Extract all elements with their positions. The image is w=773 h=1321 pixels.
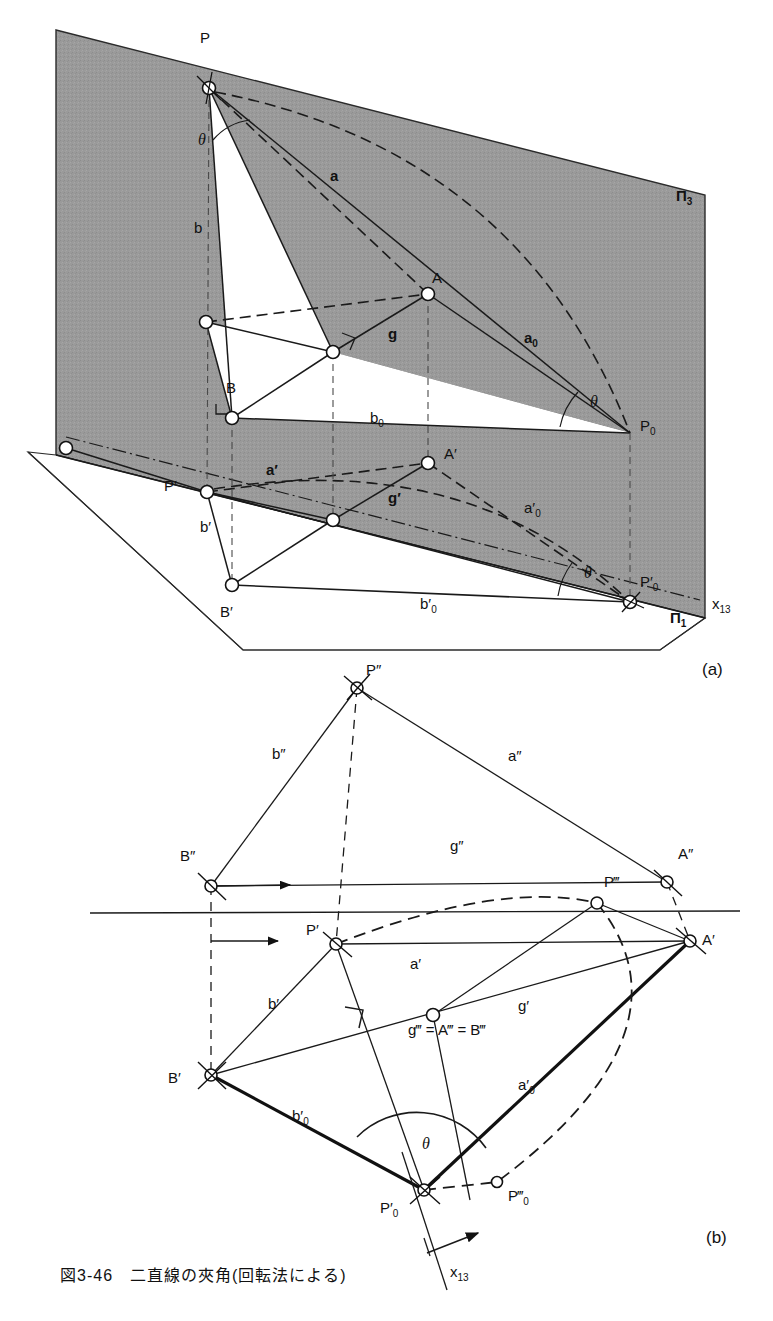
label-a-pi1: Π1	[670, 610, 686, 629]
label-a-Bq: B′	[220, 604, 233, 619]
node-gddd	[427, 1009, 440, 1022]
label-a-x13: x13	[712, 596, 731, 615]
axis-x13-tick	[424, 1238, 430, 1256]
node-Pq	[201, 486, 214, 499]
node-left-aux	[200, 316, 213, 329]
node-pi1-corner	[60, 442, 73, 455]
label-a-P0: P0	[640, 418, 656, 437]
arc-rotation-big	[497, 903, 632, 1182]
label-b-P0ddd: P‴0	[508, 1188, 529, 1207]
label-a-bq: b′	[200, 519, 211, 534]
panel-b-bold-lines	[211, 941, 690, 1190]
label-b-bdd: b″	[272, 746, 286, 761]
node-g	[327, 346, 340, 359]
node-A	[422, 288, 435, 301]
seg-aq	[336, 941, 690, 944]
label-a-theta-top: θ	[198, 132, 206, 148]
seg-Pq-P0q	[336, 944, 424, 1190]
seg-gddd-node	[433, 1015, 470, 1200]
figure-caption: 図3-46 二直線の夾角(回転法による)	[60, 1262, 347, 1286]
label-a-a0q: a′0	[524, 500, 541, 519]
label-a-A: A	[432, 270, 442, 285]
label-b-P0q: P′0	[380, 1200, 398, 1219]
projector-Pdd-Pq	[336, 688, 357, 944]
node-B	[226, 412, 239, 425]
axis-x13-arrow	[427, 1233, 478, 1253]
label-a-gq: g′	[388, 490, 401, 505]
seg-b0q-bold	[211, 1075, 424, 1190]
label-b-Pq: P′	[306, 922, 319, 937]
label-a-Aq: A′	[444, 446, 457, 461]
label-b-gdd: g″	[450, 838, 464, 853]
label-a-a: a	[330, 168, 338, 183]
label-a-aq: a′	[266, 462, 278, 477]
label-b-add: a″	[508, 748, 522, 763]
label-a-b0q: b′0	[420, 596, 437, 615]
label-a-theta-P0: θ	[590, 394, 598, 410]
right-angle-tick-gq-b	[345, 1007, 363, 1028]
label-a-pi3: Π3	[676, 188, 692, 207]
panel-b-group	[90, 674, 740, 1290]
label-a-g: g	[388, 326, 397, 341]
node-Bq	[226, 579, 239, 592]
label-a-b0: b0	[370, 410, 384, 429]
label-a-P0q: P′0	[640, 574, 658, 593]
label-b-aq: a′	[410, 956, 421, 971]
panel-a-group	[28, 30, 705, 650]
panel-b-id: (b)	[706, 1228, 727, 1248]
label-a-theta-P0q: θ	[584, 565, 592, 581]
label-a-Pq: P′	[164, 478, 177, 493]
arc-rotation-Pddd	[336, 897, 597, 944]
label-b-Bdd: B″	[180, 848, 195, 863]
label-a-B: B	[226, 380, 236, 395]
node-Pddd	[591, 897, 603, 909]
label-a-P: P	[200, 30, 210, 45]
label-b-gddd: g‴ = A‴ = B‴	[408, 1022, 486, 1037]
node-Aq	[422, 457, 435, 470]
label-b-a0q: a′0	[518, 1077, 535, 1096]
label-b-Add: A″	[678, 846, 693, 861]
label-b-b0q: b′0	[292, 1108, 309, 1127]
panel-b-upper-triangle	[211, 688, 667, 886]
figure-canvas	[0, 0, 773, 1321]
node-P0ddd	[492, 1177, 503, 1188]
seg-Pdd-Add	[357, 688, 667, 882]
node-gq	[327, 514, 340, 527]
label-b-bq: b′	[268, 996, 279, 1011]
label-b-gq: g′	[518, 998, 529, 1013]
label-a-a0: a0	[524, 330, 538, 349]
label-b-x13: x13	[450, 1264, 469, 1283]
label-a-b: b	[194, 220, 202, 235]
reference-axis-line	[90, 911, 740, 913]
label-b-Pddd: P‴	[604, 874, 619, 889]
seg-Bdd-Pdd	[211, 688, 357, 886]
label-b-Pdd: P″	[366, 662, 381, 677]
label-b-theta: θ	[422, 1136, 430, 1152]
label-b-Aq: A′	[702, 932, 715, 947]
label-b-Bq: B′	[168, 1070, 181, 1085]
seg-P0q-P0ddd-dashed	[424, 1182, 497, 1190]
seg-Pddd-gddd	[433, 903, 597, 1015]
tick-Add	[654, 870, 682, 896]
panel-a-id: (a)	[702, 660, 723, 680]
